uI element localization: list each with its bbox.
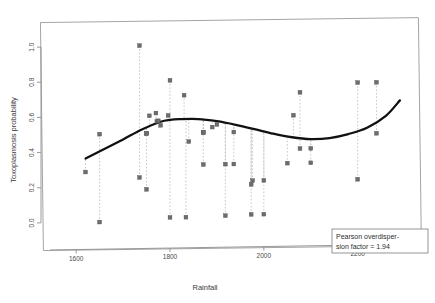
data-point: [356, 81, 360, 85]
data-point: [215, 122, 219, 126]
x-tick-label: 1600: [69, 255, 84, 262]
chart-canvas: 0.00.20.40.60.81.0 1600180020002200 Rain…: [0, 0, 435, 303]
data-point: [84, 170, 88, 174]
data-point: [232, 162, 236, 166]
data-point: [182, 93, 186, 97]
data-point: [187, 140, 191, 144]
data-point: [262, 212, 266, 216]
data-point: [201, 131, 205, 135]
data-point: [251, 179, 255, 183]
y-tick-label: 0.2: [28, 183, 35, 192]
y-tick-label: 0.0: [28, 218, 35, 227]
x-tick-label: 1800: [163, 253, 178, 260]
data-point: [210, 125, 214, 129]
data-point: [145, 187, 149, 191]
chart-figure: 0.00.20.40.60.81.0 1600180020002200 Rain…: [0, 0, 435, 303]
data-point: [298, 90, 302, 94]
data-point: [166, 114, 170, 118]
data-point: [168, 78, 172, 82]
data-point: [375, 80, 379, 84]
data-point: [285, 161, 289, 165]
data-point: [184, 215, 188, 219]
y-axis-title: Toxoplasmosis probability: [9, 97, 18, 183]
data-point: [98, 132, 102, 136]
data-point: [145, 132, 149, 136]
data-point: [375, 131, 379, 135]
data-point: [309, 146, 313, 150]
figure-background: [0, 0, 435, 303]
data-point: [138, 176, 142, 180]
data-point: [201, 163, 205, 167]
data-point: [298, 147, 302, 151]
data-point: [98, 220, 102, 224]
data-point: [309, 161, 313, 165]
data-point: [154, 111, 158, 115]
y-tick-label: 1.0: [28, 42, 35, 51]
x-tick-label: 2000: [257, 252, 272, 259]
y-tick-label: 0.4: [28, 148, 35, 157]
data-point: [223, 162, 227, 166]
data-point: [168, 216, 172, 220]
y-tick-label: 0.6: [28, 113, 35, 122]
y-tick-label: 0.8: [28, 77, 35, 86]
data-point: [138, 44, 142, 48]
legend-line-1: Pearson overdisper-: [336, 233, 400, 241]
data-point: [292, 113, 296, 117]
data-point: [262, 179, 266, 183]
data-point: [249, 212, 253, 216]
x-axis-title: Rainfall: [192, 283, 217, 292]
data-point: [156, 119, 160, 123]
data-point: [159, 123, 163, 127]
data-point: [249, 183, 253, 187]
legend-line-2: sion factor = 1.94: [336, 243, 390, 250]
data-point: [232, 130, 236, 134]
overdispersion-legend: Pearson overdisper- sion factor = 1.94: [332, 229, 428, 253]
data-point: [147, 114, 151, 118]
data-point: [223, 214, 227, 218]
data-point: [356, 177, 360, 181]
